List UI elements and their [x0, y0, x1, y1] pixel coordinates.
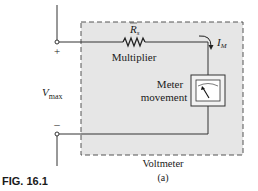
negative-sign: – — [53, 118, 60, 130]
multiplier-label: Multiplier — [112, 51, 157, 63]
voltage-label: Vmax — [42, 86, 63, 101]
positive-sign: + — [54, 45, 60, 57]
meter-movement-icon — [191, 75, 225, 106]
voltmeter-label: Voltmeter — [142, 158, 184, 169]
positive-terminal-icon — [55, 40, 59, 44]
negative-terminal-icon — [55, 132, 59, 136]
sub-figure-label: (a) — [157, 172, 168, 184]
meter-label-line2: movement — [141, 91, 187, 103]
meter-label-line1: Meter — [157, 78, 184, 90]
figure-caption: FIG. 16.1 — [2, 175, 48, 187]
circuit-diagram: Rs Multiplier IM Meter movement + – Vmax… — [0, 0, 258, 191]
